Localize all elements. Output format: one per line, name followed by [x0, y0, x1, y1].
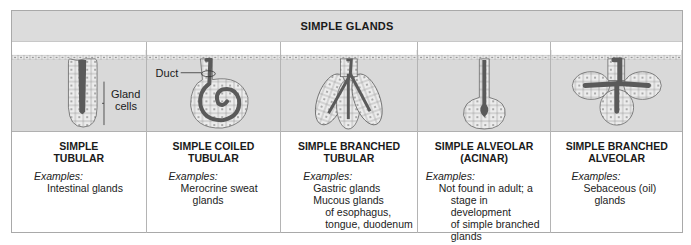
gland-type-title: SIMPLE BRANCHED ALVEOLAR: [551, 140, 682, 164]
description-simple-branched-alveolar: SIMPLE BRANCHED ALVEOLAR Examples: Sebac…: [551, 132, 682, 233]
example-item: glands: [551, 194, 682, 206]
title-line-1: SIMPLE COILED: [147, 140, 281, 152]
example-item: Merocrine sweat: [147, 182, 281, 194]
column-simple-branched-alveolar: SIMPLE BRANCHED ALVEOLAR Examples: Sebac…: [551, 42, 682, 233]
examples-label: Examples:: [12, 170, 146, 182]
title-line-2: (ACINAR): [418, 152, 551, 164]
column-simple-tubular: Gland cells SIMPLE TUBULAR Examples: Int…: [12, 42, 147, 233]
example-item: Sebaceous (oil): [551, 182, 682, 194]
description-simple-alveolar: SIMPLE ALVEOLAR (ACINAR) Examples: Not f…: [418, 132, 551, 233]
example-item: glands: [418, 230, 551, 242]
column-simple-branched-tubular: SIMPLE BRANCHED TUBULAR Examples: Gastri…: [281, 42, 418, 233]
title-line-1: SIMPLE BRANCHED: [281, 140, 417, 152]
examples-label: Examples:: [418, 170, 551, 182]
example-item: of esophagus,: [281, 206, 417, 218]
title-line-2: ALVEOLAR: [551, 152, 682, 164]
examples-label: Examples:: [147, 170, 281, 182]
simple-coiled-tubular-gland-icon: [147, 50, 281, 131]
title-line-1: SIMPLE BRANCHED: [551, 140, 682, 152]
figure-title: SIMPLE GLANDS: [12, 11, 682, 42]
simple-branched-alveolar-gland-icon: [551, 50, 682, 131]
example-item: Intestinal glands: [12, 182, 146, 194]
title-line-2: TUBULAR: [12, 152, 146, 164]
illustration-simple-coiled-tubular: Duct: [147, 50, 281, 132]
simple-branched-tubular-gland-icon: [281, 50, 417, 131]
example-item: of simple branched: [418, 218, 551, 230]
gland-type-title: SIMPLE BRANCHED TUBULAR: [281, 140, 417, 164]
gland-cells-label-line1: Gland: [111, 88, 140, 100]
description-simple-coiled-tubular: SIMPLE COILED TUBULAR Examples: Merocrin…: [147, 132, 281, 233]
illustration-simple-alveolar: [418, 50, 551, 132]
example-item: Mucous glands: [281, 194, 417, 206]
gland-columns: Gland cells SIMPLE TUBULAR Examples: Int…: [12, 42, 682, 233]
examples-label: Examples:: [281, 170, 417, 182]
gland-type-title: SIMPLE TUBULAR: [12, 140, 146, 164]
illustration-simple-tubular: Gland cells: [12, 50, 146, 132]
example-item: stage in development: [418, 194, 551, 218]
simple-alveolar-gland-icon: [418, 50, 551, 131]
example-item: Not found in adult; a: [418, 182, 551, 194]
gland-cells-label: Gland cells: [111, 88, 140, 112]
title-line-2: TUBULAR: [281, 152, 417, 164]
title-line-1: SIMPLE ALVEOLAR: [418, 140, 551, 152]
simple-glands-figure: SIMPLE GLANDS: [11, 10, 683, 233]
examples-label: Examples:: [551, 170, 682, 182]
description-simple-branched-tubular: SIMPLE BRANCHED TUBULAR Examples: Gastri…: [281, 132, 417, 233]
gland-type-title: SIMPLE ALVEOLAR (ACINAR): [418, 140, 551, 164]
illustration-simple-branched-tubular: [281, 50, 417, 132]
example-item: Gastric glands: [281, 182, 417, 194]
title-line-2: TUBULAR: [147, 152, 281, 164]
column-simple-coiled-tubular: Duct SIMPLE COILED TUBULAR Examples: Mer…: [147, 42, 282, 233]
example-item: tongue, duodenum: [281, 218, 417, 230]
duct-label: Duct: [156, 67, 179, 79]
gland-cells-label-line2: cells: [111, 100, 140, 112]
illustration-simple-branched-alveolar: [551, 50, 682, 132]
description-simple-tubular: SIMPLE TUBULAR Examples: Intestinal glan…: [12, 132, 146, 233]
column-simple-alveolar: SIMPLE ALVEOLAR (ACINAR) Examples: Not f…: [418, 42, 552, 233]
example-item: glands: [147, 194, 281, 206]
gland-type-title: SIMPLE COILED TUBULAR: [147, 140, 281, 164]
title-line-1: SIMPLE: [12, 140, 146, 152]
